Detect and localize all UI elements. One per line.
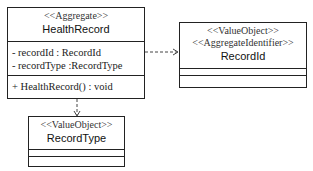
class-header: <<ValueObject>> RecordType bbox=[29, 117, 124, 149]
class-record-id[interactable]: <<ValueObject>> <<AggregateIdentifier>> … bbox=[179, 22, 307, 88]
operations-section: + HealthRecord() : void bbox=[8, 75, 144, 93]
stereotype: <<ValueObject>> bbox=[29, 119, 124, 131]
operations-section bbox=[180, 75, 306, 76]
class-header: <<ValueObject>> <<AggregateIdentifier>> … bbox=[180, 23, 306, 68]
class-health-record[interactable]: <<Aggregate>> HealthRecord - recordId : … bbox=[7, 7, 145, 99]
class-name: HealthRecord bbox=[8, 22, 144, 36]
attribute: - recordId : RecordId bbox=[8, 46, 144, 59]
class-name: RecordType bbox=[29, 131, 124, 145]
class-header: <<Aggregate>> HealthRecord bbox=[8, 8, 144, 41]
stereotype: <<ValueObject>> bbox=[180, 25, 306, 37]
stereotype: <<Aggregate>> bbox=[8, 10, 144, 22]
attributes-section bbox=[29, 149, 124, 156]
class-name: RecordId bbox=[180, 49, 306, 63]
attributes-section bbox=[180, 68, 306, 75]
stereotype: <<AggregateIdentifier>> bbox=[180, 37, 306, 49]
operation: + HealthRecord() : void bbox=[8, 80, 144, 93]
operations-section bbox=[29, 156, 124, 157]
attributes-section: - recordId : RecordId - recordType :Reco… bbox=[8, 41, 144, 75]
attribute: - recordType :RecordType bbox=[8, 59, 144, 72]
class-record-type[interactable]: <<ValueObject>> RecordType bbox=[28, 116, 125, 167]
